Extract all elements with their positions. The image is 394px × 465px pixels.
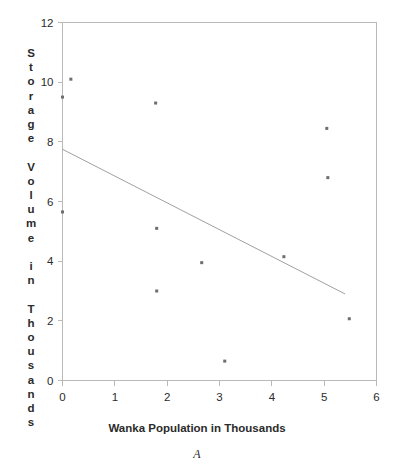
- y-axis-label-char: a: [28, 374, 35, 386]
- y-axis-label-char: d: [27, 402, 34, 414]
- y-axis-label-char: m: [26, 217, 36, 229]
- figure-caption: A: [192, 447, 201, 461]
- data-point: [155, 290, 158, 293]
- x-tick-label: 0: [59, 391, 65, 403]
- y-axis-label-char: o: [27, 75, 34, 87]
- data-point: [223, 360, 226, 363]
- y-axis-label-char: o: [27, 331, 34, 343]
- plot-svg: 024681012 0123456 StorageVolumeinThousan…: [0, 0, 394, 465]
- scatter-plot-figure: 024681012 0123456 StorageVolumeinThousan…: [0, 0, 394, 465]
- y-tick-label: 12: [41, 17, 54, 29]
- data-point: [69, 78, 72, 81]
- y-axis-label-char: n: [27, 274, 34, 286]
- plot-frame: [63, 23, 377, 381]
- x-tick-label: 2: [164, 391, 170, 403]
- y-tick-label: 6: [47, 196, 53, 208]
- y-axis-label-char: V: [27, 161, 35, 173]
- y-axis-label-char: t: [29, 61, 33, 73]
- data-point: [61, 210, 64, 213]
- y-tick-label: 10: [41, 76, 54, 88]
- x-axis-label: Wanka Population in Thousands: [108, 422, 285, 434]
- data-point: [282, 255, 285, 258]
- y-axis-label-char: S: [27, 47, 35, 59]
- y-axis-label-char: a: [28, 104, 35, 116]
- y-axis-label-char: r: [29, 90, 34, 102]
- y-axis-label-char: s: [28, 359, 34, 371]
- data-point: [200, 261, 203, 264]
- data-point: [61, 96, 64, 99]
- y-axis-label-char: u: [27, 203, 34, 215]
- data-point: [348, 317, 351, 320]
- y-axis-label-char: e: [28, 132, 34, 144]
- y-axis-label-char: o: [27, 175, 34, 187]
- y-axis-title: StorageVolumeinThousands: [26, 47, 36, 428]
- x-tick-label: 5: [321, 391, 327, 403]
- data-point: [154, 102, 157, 105]
- x-axis-ticks: 0123456: [59, 381, 379, 403]
- y-axis-label-char: g: [27, 118, 34, 130]
- x-tick-label: 3: [216, 391, 222, 403]
- x-tick-label: 6: [373, 391, 379, 403]
- data-points: [61, 78, 351, 363]
- data-point: [155, 227, 158, 230]
- y-tick-label: 4: [47, 255, 54, 267]
- y-axis-label-char: h: [27, 317, 34, 329]
- y-tick-label: 0: [47, 375, 53, 387]
- y-axis-label-char: e: [28, 232, 34, 244]
- y-axis-ticks: 024681012: [41, 17, 63, 387]
- data-point: [326, 176, 329, 179]
- y-tick-label: 8: [47, 136, 53, 148]
- y-axis-label-char: s: [28, 416, 34, 428]
- x-tick-label: 1: [112, 391, 118, 403]
- y-tick-label: 2: [47, 315, 53, 327]
- y-axis-label-char: n: [27, 388, 34, 400]
- y-axis-label-char: u: [27, 345, 34, 357]
- trend-line: [63, 149, 346, 294]
- regression-line: [63, 149, 346, 294]
- y-axis-label-char: i: [29, 260, 32, 272]
- x-tick-label: 4: [269, 391, 276, 403]
- y-axis-label-char: T: [27, 303, 34, 315]
- data-point: [325, 127, 328, 130]
- y-axis-label-char: l: [29, 189, 32, 201]
